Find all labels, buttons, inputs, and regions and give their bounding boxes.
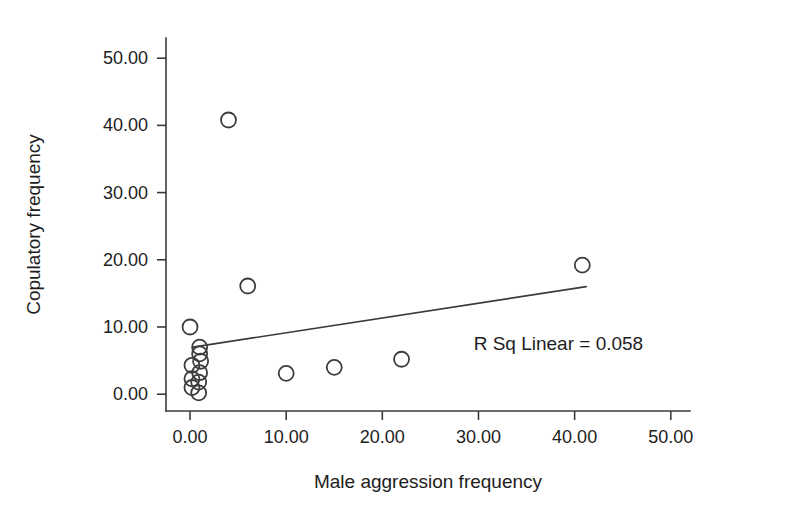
y-tick-label: 50.00 (103, 48, 148, 68)
data-point (221, 112, 236, 127)
data-point (575, 258, 590, 273)
x-tick-label: 10.00 (264, 427, 309, 447)
x-tick-label: 20.00 (360, 427, 405, 447)
scatter-plot-figure: 0.0010.0020.0030.0040.0050.00 0.0010.002… (0, 0, 809, 517)
y-axis-ticks: 0.0010.0020.0030.0040.0050.00 (103, 48, 166, 404)
x-tick-label: 0.00 (173, 427, 208, 447)
data-point (327, 360, 342, 375)
data-points-group (183, 112, 590, 400)
plot-canvas: 0.0010.0020.0030.0040.0050.00 0.0010.002… (0, 0, 809, 517)
data-point (183, 319, 198, 334)
y-tick-label: 30.00 (103, 183, 148, 203)
data-point (279, 366, 294, 381)
y-axis-title: Copulatory frequency (23, 134, 44, 315)
y-tick-label: 0.00 (113, 384, 148, 404)
data-point (394, 352, 409, 367)
r-squared-annotation: R Sq Linear = 0.058 (474, 333, 644, 354)
y-tick-label: 40.00 (103, 115, 148, 135)
y-tick-label: 20.00 (103, 250, 148, 270)
y-tick-label: 10.00 (103, 317, 148, 337)
x-axis-title: Male aggression frequency (314, 471, 543, 492)
data-point (240, 278, 255, 293)
x-tick-label: 30.00 (456, 427, 501, 447)
x-tick-label: 50.00 (648, 427, 693, 447)
x-tick-label: 40.00 (552, 427, 597, 447)
x-axis-ticks: 0.0010.0020.0030.0040.0050.00 (173, 411, 694, 447)
